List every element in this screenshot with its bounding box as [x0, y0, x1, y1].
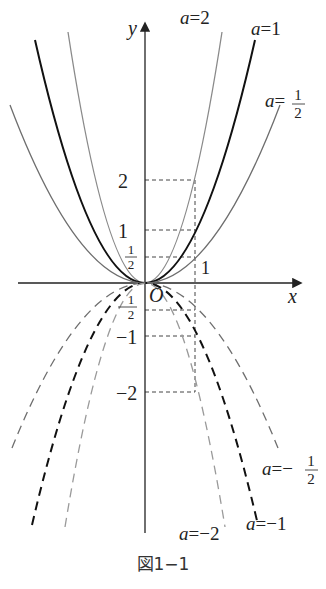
- y-tick-half: 1 2: [125, 242, 137, 272]
- svg-text:1: 1: [128, 292, 135, 307]
- parabola-diagram: 2 1 1 2 1 2 −1 −2 1 O x y a=2 a=1 a= 1 2…: [0, 0, 326, 545]
- y-tick-1: 1: [118, 220, 128, 242]
- y-axis-label: y: [126, 17, 137, 40]
- label-a-neg-1: a=−1: [246, 513, 286, 534]
- x-axis-label: x: [287, 285, 297, 307]
- svg-text:1: 1: [294, 87, 302, 103]
- figure-caption: 図1−1: [0, 550, 326, 575]
- svg-text:1: 1: [128, 242, 135, 257]
- svg-text:1: 1: [307, 453, 315, 469]
- x-tick-1: 1: [201, 258, 210, 278]
- svg-text:2: 2: [128, 257, 135, 272]
- svg-text:2: 2: [307, 471, 315, 487]
- svg-text:a=−: a=−: [262, 458, 293, 479]
- y-tick-2: 2: [118, 170, 128, 192]
- label-a-half: a= 1 2: [265, 87, 305, 121]
- svg-text:2: 2: [294, 105, 302, 121]
- label-a-1: a=1: [251, 18, 281, 39]
- origin-label: O: [149, 284, 163, 306]
- label-a-neg-half: a=− 1 2: [262, 453, 318, 487]
- y-tick-neg-2: −2: [116, 382, 137, 404]
- svg-text:a=: a=: [265, 90, 285, 111]
- svg-text:2: 2: [128, 307, 135, 322]
- label-a-neg-2: a=−2: [179, 523, 219, 544]
- label-a-2: a=2: [180, 7, 210, 28]
- y-tick-neg-1: −1: [116, 326, 137, 348]
- y-tick-neg-half: 1 2: [118, 292, 137, 322]
